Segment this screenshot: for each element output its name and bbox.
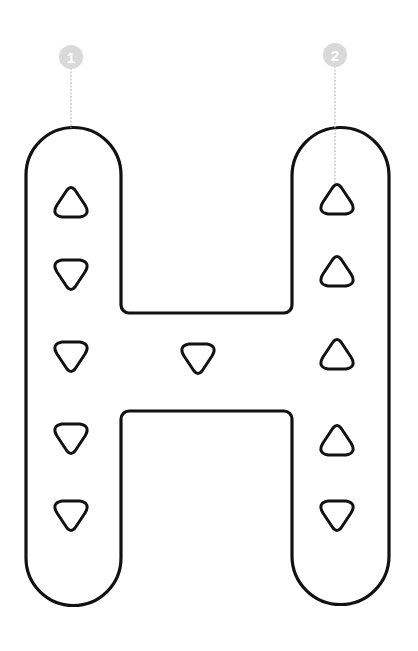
- letter-h-diagram: 12: [0, 0, 418, 651]
- step-badge-label: 2: [331, 47, 339, 64]
- step-badge-1: 1: [59, 45, 83, 69]
- stroke-number-badges: 12: [59, 43, 347, 69]
- step-badge-2: 2: [323, 43, 347, 67]
- step-badge-label: 1: [67, 49, 75, 66]
